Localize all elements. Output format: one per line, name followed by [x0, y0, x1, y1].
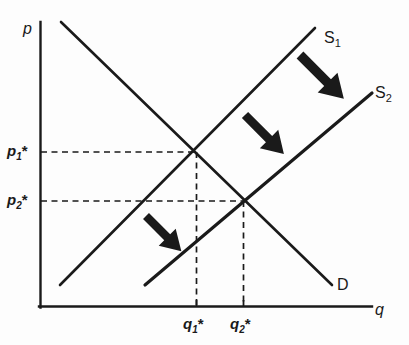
price-2-star: * [22, 191, 28, 208]
price-1-base: p [7, 142, 16, 159]
supply-curve-s2 [145, 93, 372, 285]
quantity-2-tick-label: q2* [230, 316, 251, 335]
supply-s2-base: S [375, 84, 386, 101]
price-1-tick-label: p1* [7, 143, 28, 162]
price-2-tick-label: p2* [7, 192, 28, 211]
supply-s1-subscript: 1 [335, 37, 341, 49]
supply-curve-s2-label: S2 [375, 85, 392, 104]
supply-s2-subscript: 2 [386, 92, 392, 104]
chart-canvas [0, 0, 409, 345]
axes-group [39, 22, 372, 308]
price-1-star: * [22, 142, 28, 159]
demand-curve [61, 22, 332, 285]
qty-1-base: q [183, 315, 192, 332]
shift-arrow-top-icon [290, 45, 354, 109]
supply-s1-base: S [324, 29, 335, 46]
supply-demand-shift-figure: p q S1 S2 D p1* p2* q1* q2* [0, 0, 409, 345]
supply-curve-s1 [60, 28, 315, 285]
shift-arrow-middle-icon [236, 106, 293, 163]
qty-2-star: * [245, 315, 251, 332]
qty-1-star: * [198, 315, 204, 332]
x-axis-ticks [197, 300, 244, 306]
x-axis-label: q [375, 302, 384, 318]
y-axis-label: p [23, 21, 32, 37]
demand-curve-label: D [337, 277, 349, 293]
price-2-base: p [7, 191, 16, 208]
quantity-1-tick-label: q1* [183, 316, 204, 335]
supply-curve-s1-label: S1 [324, 30, 341, 49]
qty-2-base: q [230, 315, 239, 332]
